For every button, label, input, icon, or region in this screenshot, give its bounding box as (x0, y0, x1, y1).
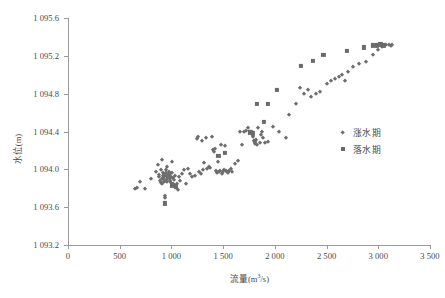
data-point-series-1 (222, 168, 227, 173)
y-tick-label: 1 095.2 (0, 52, 59, 61)
data-point-series-1 (380, 45, 385, 50)
data-point-series-1 (328, 79, 333, 84)
data-point-series-1 (356, 62, 361, 67)
data-point-series-1 (340, 72, 345, 77)
data-point-series-1 (195, 137, 200, 142)
data-point-series-1 (132, 187, 137, 192)
data-point-series-2 (216, 154, 220, 158)
data-point-series-1 (160, 182, 165, 187)
x-tick-mark (223, 245, 224, 249)
y-tick-label: 1 095.6 (0, 14, 59, 23)
data-point-series-1 (230, 170, 235, 175)
data-point-series-1 (206, 165, 211, 170)
data-point-series-2 (362, 45, 366, 49)
data-point-series-1 (178, 178, 183, 183)
data-point-series-1 (161, 174, 166, 179)
data-point-series-1 (226, 171, 231, 176)
legend-item-1[interactable]: 涨水期 (338, 124, 381, 141)
data-point-series-1 (166, 173, 171, 178)
data-point-series-1 (337, 74, 342, 79)
x-tick-label: 2 000 (265, 252, 284, 261)
data-point-series-1 (157, 174, 162, 179)
data-point-series-1 (215, 171, 220, 176)
data-point-series-1 (170, 159, 175, 164)
data-point-series-1 (298, 86, 303, 91)
data-point-series-1 (351, 65, 356, 70)
data-point-series-1 (171, 182, 176, 187)
y-tick-label: 1 094.0 (0, 165, 59, 174)
x-tick-mark (171, 245, 172, 249)
data-point-series-1 (260, 129, 265, 134)
data-point-series-1 (253, 138, 258, 143)
x-tick-label: 1 000 (162, 252, 181, 261)
data-point-series-1 (171, 175, 176, 180)
legend-item-2[interactable]: 落水期 (338, 141, 381, 158)
data-point-series-1 (188, 172, 193, 177)
x-tick-mark (327, 245, 328, 249)
data-point-series-2 (262, 120, 266, 124)
data-point-series-1 (247, 130, 252, 135)
data-point-series-1 (261, 136, 266, 141)
legend-label: 落水期 (353, 143, 381, 156)
data-point-series-1 (246, 125, 251, 130)
data-point-series-1 (163, 168, 168, 173)
data-point-series-1 (243, 128, 248, 133)
data-point-series-1 (172, 177, 177, 182)
data-point-series-1 (164, 174, 169, 179)
data-point-series-1 (210, 148, 215, 153)
data-point-series-1 (376, 48, 381, 53)
data-point-series-1 (179, 172, 184, 177)
data-point-series-1 (203, 136, 208, 141)
scatter-chart-figure: 水位(m) 流量(m3/s) 1 093.21 093.61 094.01 09… (0, 0, 445, 298)
data-point-series-1 (159, 157, 164, 162)
data-point-series-1 (266, 139, 271, 144)
data-point-series-1 (173, 174, 178, 179)
data-point-series-1 (211, 150, 216, 155)
data-point-series-1 (200, 139, 205, 144)
data-point-series-1 (166, 170, 171, 175)
data-point-series-1 (202, 160, 207, 165)
data-point-series-1 (168, 172, 173, 177)
data-point-series-1 (164, 171, 169, 176)
data-point-series-1 (363, 59, 368, 64)
data-point-series-1 (169, 180, 174, 185)
data-point-series-1 (198, 172, 203, 177)
data-point-series-1 (251, 139, 256, 144)
data-point-series-2 (223, 151, 227, 155)
y-tick-label: 1 093.6 (0, 203, 59, 212)
data-point-series-1 (161, 176, 166, 181)
data-point-series-1 (259, 133, 264, 138)
x-tick-mark (120, 245, 121, 249)
data-point-series-1 (192, 174, 197, 179)
data-point-series-1 (225, 170, 230, 175)
data-point-series-1 (346, 70, 351, 75)
data-point-series-1 (252, 141, 257, 146)
x-tick-mark (68, 245, 69, 249)
data-point-series-1 (201, 168, 206, 173)
data-point-series-1 (156, 173, 161, 178)
x-tick-label: 2 500 (317, 252, 336, 261)
data-point-series-1 (159, 168, 164, 173)
data-point-series-2 (255, 102, 259, 106)
data-point-series-1 (221, 170, 226, 175)
data-point-series-1 (155, 162, 160, 167)
y-tick-label: 1 093.2 (0, 241, 59, 250)
data-point-series-1 (324, 82, 329, 87)
data-point-series-1 (176, 174, 181, 179)
data-point-series-2 (381, 43, 385, 47)
data-point-series-1 (248, 131, 253, 136)
data-point-series-1 (163, 193, 168, 198)
data-point-series-1 (166, 175, 171, 180)
data-point-series-1 (241, 130, 246, 135)
x-tick-mark (378, 245, 379, 249)
data-point-series-2 (253, 139, 257, 143)
data-point-series-1 (158, 178, 163, 183)
data-point-series-1 (309, 95, 314, 100)
data-point-series-1 (165, 179, 170, 184)
data-point-series-1 (254, 142, 259, 147)
data-point-series-1 (138, 179, 143, 184)
data-point-series-2 (163, 201, 167, 205)
data-point-series-1 (158, 180, 163, 185)
x-tick-mark (430, 245, 431, 249)
data-point-series-1 (205, 167, 210, 172)
